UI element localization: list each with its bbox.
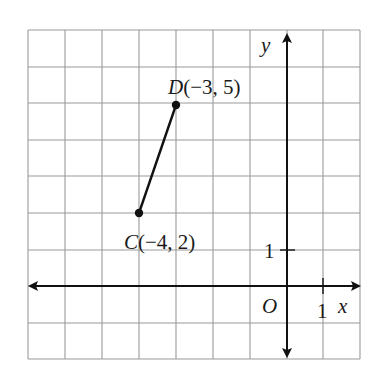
point-d-name: D bbox=[167, 75, 183, 99]
coordinate-plane: D(−3, 5) C(−4, 2) y x O 1 1 bbox=[0, 0, 379, 380]
point-c-coords: (−4, 2) bbox=[138, 230, 195, 254]
point-d-coords: (−3, 5) bbox=[183, 75, 240, 99]
point-c bbox=[135, 209, 143, 217]
x-axis-label: x bbox=[337, 294, 348, 318]
point-d-label: D(−3, 5) bbox=[167, 75, 241, 99]
point-c-name: C bbox=[124, 230, 139, 254]
origin-label: O bbox=[262, 294, 277, 318]
y-unit-label: 1 bbox=[264, 239, 275, 263]
segment-cd bbox=[139, 105, 176, 213]
point-c-label: C(−4, 2) bbox=[124, 230, 195, 254]
point-d bbox=[172, 101, 180, 109]
y-axis-label: y bbox=[259, 33, 271, 57]
x-unit-label: 1 bbox=[317, 299, 328, 323]
